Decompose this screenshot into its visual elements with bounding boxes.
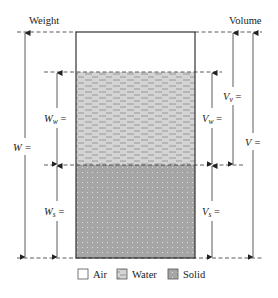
v-water-label: Vw=	[202, 113, 223, 126]
v-water-dimension: Vw=	[202, 73, 223, 164]
solid-swatch-icon	[168, 269, 178, 279]
volume-header: Volume	[229, 15, 262, 26]
solid-phase	[76, 165, 195, 258]
w-water-label: Ww=	[44, 113, 67, 126]
w-total-dimension: W =	[13, 33, 31, 257]
v-voids-label: Vv=	[223, 91, 242, 104]
air-swatch-icon	[78, 269, 88, 279]
legend-solid-label: Solid	[183, 269, 206, 280]
w-water-dimension: Ww=	[44, 73, 67, 164]
v-voids-dimension: Vv=	[223, 33, 242, 164]
v-solid-label: Vs=	[202, 206, 220, 219]
air-phase	[76, 32, 195, 72]
phase-diagram: Weight Volume W = Ww= Ws= Vw= Vv= Vs=	[0, 0, 278, 298]
w-solid-dimension: Ws=	[44, 166, 65, 257]
legend: Air Water Solid	[78, 269, 206, 280]
w-solid-label: Ws=	[44, 206, 65, 219]
weight-header: Weight	[29, 15, 59, 26]
w-total-label: W =	[13, 142, 31, 153]
water-swatch-icon	[117, 269, 127, 279]
v-total-label: V =	[245, 137, 261, 148]
water-phase	[76, 72, 195, 165]
v-solid-dimension: Vs=	[202, 166, 220, 257]
v-total-dimension: V =	[245, 33, 261, 257]
legend-water-label: Water	[132, 269, 157, 280]
legend-air-label: Air	[93, 269, 108, 280]
